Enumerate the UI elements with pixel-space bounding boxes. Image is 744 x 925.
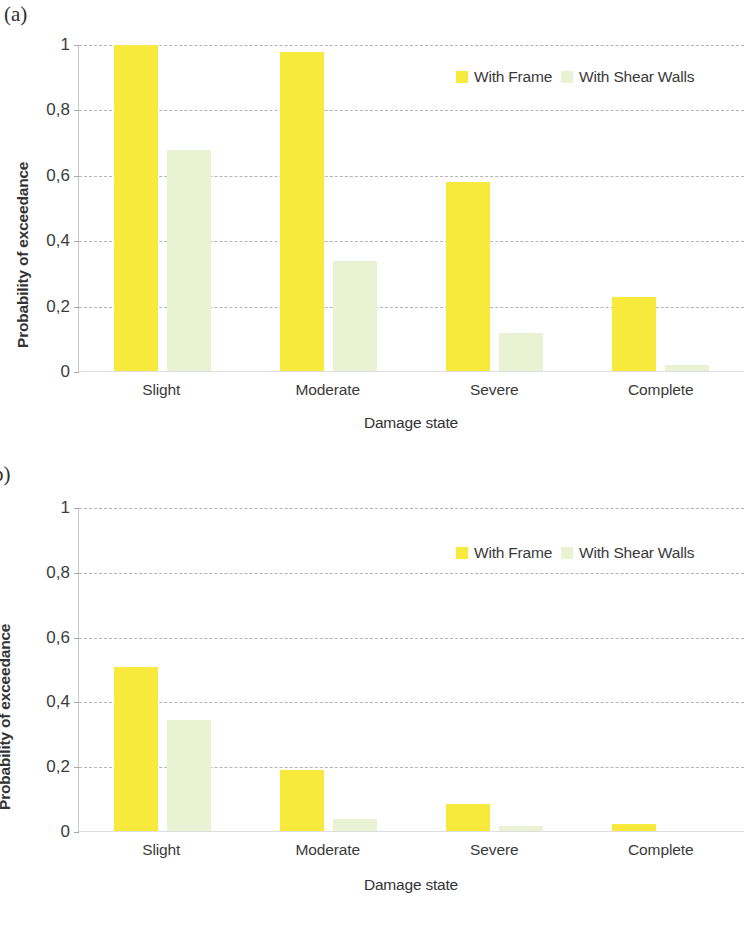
bar-group-moderate [245,508,411,832]
bar-moderate-with-shear-walls [333,261,377,372]
x-axis-category-severe: Severe [411,841,578,859]
bar-severe-with-frame [446,182,490,372]
bar-moderate-with-frame [280,770,324,832]
y-axis-label: 0 [14,363,70,380]
y-axis-label: 1 [14,36,70,53]
panel-label-a: (a) [4,2,27,27]
x-axis-category-complete: Complete [578,381,744,399]
legend-label: With Frame [474,68,552,86]
x-axis-line-a [79,371,744,372]
y-axis-label: 0,4 [14,693,70,710]
legend-entry: With Shear Walls [561,544,694,562]
y-axis-label: 0,2 [14,758,70,775]
y-axis-label: 0,8 [14,101,70,118]
legend-entry: With Shear Walls [561,68,694,86]
bar-severe-with-frame [446,804,490,832]
x-axis-category-severe: Severe [411,381,578,399]
x-axis-title-a: Damage state [78,414,744,432]
y-axis-tick [74,372,79,373]
x-axis-category-moderate: Moderate [245,841,412,859]
bar-slight-with-frame [114,667,158,832]
bar-slight-with-shear-walls [167,150,211,372]
legend-swatch-icon [561,547,573,559]
y-axis-label: 0,4 [14,232,70,249]
y-axis-title-b: Probability of exceedance [0,624,14,810]
bar-slight-with-shear-walls [167,720,211,832]
x-axis-categories-a: SlightModerateSevereComplete [78,381,744,399]
legend-swatch-icon [456,547,468,559]
bar-group-severe [412,45,578,372]
bar-complete-with-frame [612,297,656,372]
x-axis-line-b [79,831,744,832]
legend-entry: With Frame [456,68,552,86]
bar-group-slight [79,45,245,372]
x-axis-category-slight: Slight [78,381,245,399]
y-axis-tick [74,832,79,833]
plot-area-a [78,45,744,372]
bar-group-slight [79,508,245,832]
bar-group-moderate [245,45,411,372]
x-axis-category-moderate: Moderate [245,381,412,399]
y-axis-label: 0 [14,823,70,840]
x-axis-category-complete: Complete [578,841,744,859]
panel-label-b: b) [0,462,11,487]
x-axis-title-b: Damage state [78,876,744,894]
legend-label: With Frame [474,544,552,562]
legend-swatch-icon [561,71,573,83]
bar-moderate-with-frame [280,52,324,372]
x-axis-category-slight: Slight [78,841,245,859]
y-axis-label: 0,8 [14,564,70,581]
bar-group-complete [578,45,744,372]
legend-label: With Shear Walls [579,544,694,562]
legend-entry: With Frame [456,544,552,562]
legend-b: With FrameWith Shear Walls [456,544,694,562]
bar-slight-with-frame [114,45,158,372]
y-axis-label: 0,6 [14,629,70,646]
bar-groups-a [79,45,744,372]
legend-label: With Shear Walls [579,68,694,86]
legend-swatch-icon [456,71,468,83]
chart-panel-a: (a) Probability of exceedance 10,80,60,4… [0,0,744,460]
legend-a: With FrameWith Shear Walls [456,68,694,86]
chart-panel-b: b) Probability of exceedance 10,80,60,40… [0,460,744,925]
y-axis-label: 0,2 [14,298,70,315]
y-axis-label: 0,6 [14,167,70,184]
bar-severe-with-shear-walls [499,333,543,372]
y-axis-title-a: Probability of exceedance [14,162,32,348]
y-axis-label: 1 [14,499,70,516]
x-axis-categories-b: SlightModerateSevereComplete [78,841,744,859]
